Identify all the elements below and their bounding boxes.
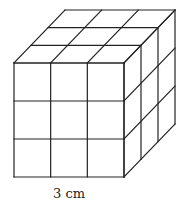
cube-diagram <box>0 0 184 206</box>
top-face <box>14 10 175 63</box>
front-face <box>14 63 124 177</box>
top-depth-line <box>14 10 65 63</box>
side-depth-line <box>124 10 175 63</box>
side-depth-line <box>124 48 175 101</box>
top-depth-line <box>51 10 102 63</box>
top-depth-line <box>87 10 138 63</box>
side-depth-line <box>124 124 175 177</box>
side-face <box>124 10 175 177</box>
side-depth-line <box>124 86 175 139</box>
dimension-label: 3 cm <box>53 186 85 201</box>
